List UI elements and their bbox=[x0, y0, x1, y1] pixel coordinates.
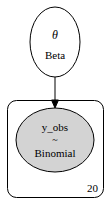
node-theta[interactable]: θ Beta bbox=[30, 7, 80, 77]
node-y_obs-distribution: Binomial bbox=[35, 147, 76, 159]
model-graph: 20 θ Beta y_obs ~ Binomial bbox=[0, 0, 111, 213]
node-theta-distribution: Beta bbox=[45, 49, 65, 61]
node-y_obs[interactable]: y_obs ~ Binomial bbox=[16, 108, 94, 172]
node-y_obs-tilde: ~ bbox=[52, 134, 58, 145]
node-theta-symbol: θ bbox=[52, 28, 58, 42]
plate-size-label: 20 bbox=[87, 182, 99, 194]
arrowhead-icon bbox=[52, 100, 59, 108]
edge-theta-to-y_obs bbox=[52, 77, 59, 108]
node-y_obs-name: y_obs bbox=[42, 121, 68, 133]
node-theta-ellipse bbox=[30, 7, 80, 77]
